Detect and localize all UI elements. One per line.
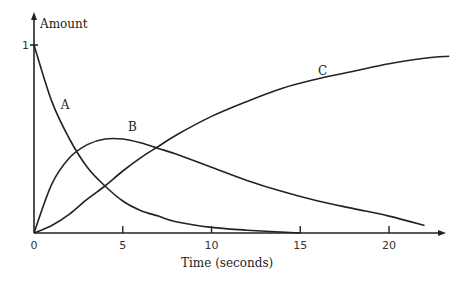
x-axis-arrow-icon (438, 230, 446, 236)
curve-label-c: C (318, 64, 327, 78)
x-tick-label: 15 (293, 239, 307, 252)
x-tick-label: 0 (31, 239, 38, 252)
axes (30, 12, 446, 236)
curve-labels: ABC (60, 64, 328, 134)
x-tick-label: 20 (382, 239, 396, 252)
curve-label-a: A (60, 98, 70, 112)
x-tick-label: 5 (119, 239, 126, 252)
x-ticks: 05101520 (31, 226, 397, 252)
curve-c (34, 56, 449, 233)
curves (34, 45, 449, 233)
x-tick-label: 10 (205, 239, 219, 252)
y-tick-label: 1 (22, 39, 29, 52)
x-axis-label: Time (seconds) (181, 256, 273, 270)
curve-a (34, 45, 300, 233)
chart: 05101520 Amount 1 Time (seconds) ABC (0, 0, 472, 286)
y-axis-label: Amount (39, 17, 88, 31)
y-axis-arrow-icon (31, 12, 37, 20)
curve-label-b: B (128, 120, 137, 134)
curve-b (34, 138, 425, 233)
